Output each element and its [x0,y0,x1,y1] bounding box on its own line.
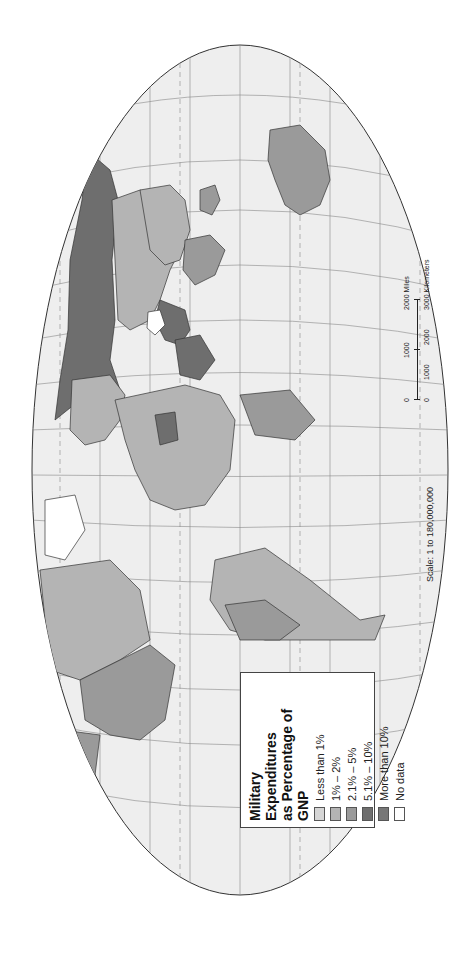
region-cuba-dark [68,782,80,797]
legend-item-1-2: 1% – 2% [328,681,343,821]
legend-item-2-5: 2.1% – 5% [344,681,359,821]
legend-swatch [378,807,389,821]
scale-km-0: 0 [423,398,430,402]
scale-bar [417,300,418,400]
scale-km-1000: 1000 [423,364,430,380]
legend-swatch [346,807,357,821]
legend-label: 2.1% – 5% [346,748,358,801]
scale-tick [414,349,420,350]
legend-label: More than 10% [378,726,390,801]
legend-label: 5.1% – 10% [362,742,374,801]
scale-miles-2000: 2000 Miles [403,276,410,310]
scale-km-3000: 3000 Kilometers [423,259,430,310]
legend-label: 1% – 2% [330,757,342,801]
legend-label: No data [394,762,406,801]
legend-item-no-data: No data [392,681,407,821]
legend-title-line1: Military Expenditures [247,681,279,821]
legend-item-5-10: 5.1% – 10% [360,681,375,821]
scale-tick [414,299,420,300]
map-legend: Military Expenditures as Percentage of G… [240,672,375,828]
legend-swatch [330,807,341,821]
region-mexico [60,730,100,790]
legend-label: Less than 1% [314,734,326,801]
legend-item-less-than-1: Less than 1% [312,681,327,821]
legend-swatch [394,807,405,821]
map-scale: Scale: 1 to 180,000,000 0 1000 2000 Mile… [395,240,445,590]
scale-tick [414,399,420,400]
legend-swatch [362,807,373,821]
legend-item-more-than-10: More than 10% [376,681,391,821]
scale-miles-1000: 1000 [403,342,410,358]
scale-km-2000: 2000 [423,329,430,345]
legend-title-line2: as Percentage of GNP [279,681,311,821]
scale-text: Scale: 1 to 180,000,000 [425,487,435,582]
scale-miles-0: 0 [403,398,410,402]
legend-swatch [314,807,325,821]
